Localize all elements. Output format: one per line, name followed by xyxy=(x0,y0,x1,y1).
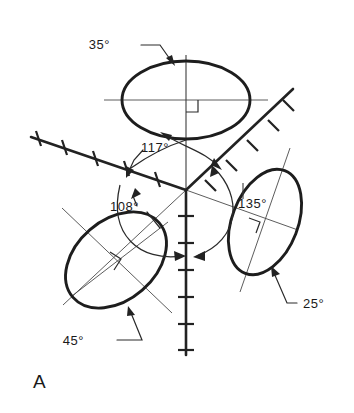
upper-right-axis xyxy=(186,89,293,190)
figure-label: A xyxy=(33,371,46,392)
technical-drawing-figure: 35° 117° 108° 135° 25° 45° A xyxy=(0,0,354,413)
label-35: 35° xyxy=(89,37,110,52)
arc-108-arrowhead xyxy=(174,251,186,261)
leader-35 xyxy=(141,45,172,62)
upper-right-axis-ticks xyxy=(205,100,294,191)
label-45: 45° xyxy=(63,333,84,348)
label-117: 117° xyxy=(141,140,169,155)
label-25: 25° xyxy=(303,296,324,311)
lower-left-ellipse-major-axis xyxy=(62,208,172,313)
label-135: 135° xyxy=(238,196,267,211)
lower-left-ellipse-right-angle-icon xyxy=(110,252,121,270)
leader-45-arrowhead xyxy=(127,306,135,316)
arc-135-arrowhead xyxy=(193,251,205,261)
top-ellipse-right-angle-icon xyxy=(186,100,198,112)
leader-25 xyxy=(274,273,297,303)
right-ellipse xyxy=(214,159,315,285)
leader-25-arrowhead xyxy=(271,266,280,277)
label-108: 108° xyxy=(110,199,139,214)
leader-45 xyxy=(117,313,142,340)
right-ellipse-right-angle-icon xyxy=(249,218,260,233)
leader-108-arrowhead xyxy=(131,188,141,199)
drawing-canvas: 35° 117° 108° 135° 25° 45° A xyxy=(0,0,354,413)
arc-108 xyxy=(117,185,182,257)
